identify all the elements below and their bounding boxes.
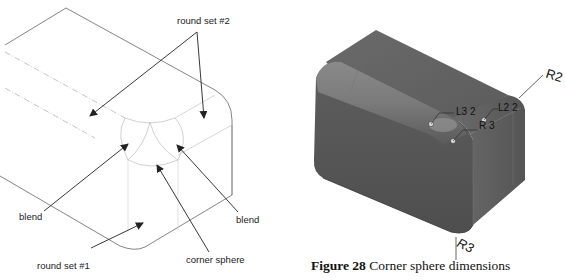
label-blend-left: blend: [19, 211, 42, 222]
dimension-r-inner: R 3: [479, 120, 495, 131]
dimension-l3: L3 2: [456, 106, 475, 117]
shaded-model: [283, 0, 566, 280]
shaded-model-figure: L3 2 L2 2 R 3 R2 R3 Figure 28 Corner sph…: [283, 0, 566, 280]
label-round-set-2: round set #2: [177, 15, 230, 26]
wireframe-figure: round set #2 blend blend corner sphere r…: [0, 0, 283, 280]
dimension-l2: L2 2: [498, 102, 517, 113]
label-blend-right: blend: [236, 214, 259, 225]
label-corner-sphere: corner sphere: [186, 254, 245, 265]
figure-number: Figure 28: [311, 258, 366, 273]
wireframe-drawing: [0, 0, 283, 280]
figure-caption-text: Corner sphere dimensions: [369, 258, 510, 273]
figure-caption: Figure 28 Corner sphere dimensions: [311, 258, 510, 274]
label-round-set-1: round set #1: [37, 260, 90, 271]
